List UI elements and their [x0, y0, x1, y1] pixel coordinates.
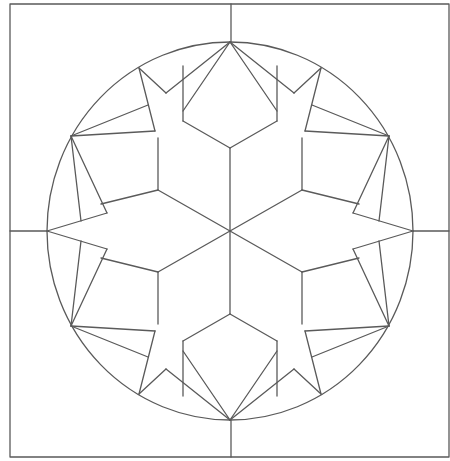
star-quilt-diagram [0, 0, 450, 461]
star-segment [305, 331, 321, 394]
star-segment [71, 326, 148, 357]
star-segment [353, 136, 389, 213]
star-segment [230, 314, 277, 341]
star-segment [294, 68, 321, 93]
star-segment [183, 314, 230, 341]
star-segment [139, 369, 166, 394]
star-segment [379, 241, 389, 326]
star-segment [158, 231, 230, 272]
star-segment [139, 331, 155, 394]
star-segment [302, 190, 359, 204]
star-segment [101, 190, 158, 204]
star-segment [230, 351, 277, 420]
star-segment [230, 42, 294, 93]
star-segment [101, 258, 158, 272]
star-segment [312, 105, 389, 136]
star-segment [294, 369, 321, 394]
star-segment [71, 105, 148, 136]
star-segment [158, 190, 230, 231]
star-segment [71, 136, 81, 221]
star-segment [230, 121, 277, 148]
star-segment [47, 213, 107, 231]
six-point-star [47, 42, 413, 420]
star-segment [305, 326, 389, 331]
star-segment [353, 249, 389, 326]
star-segment [230, 369, 294, 420]
star-segment [183, 351, 230, 420]
star-segment [139, 68, 155, 131]
star-segment [166, 369, 230, 420]
star-segment [139, 68, 166, 93]
star-segment [183, 121, 230, 148]
star-segment [302, 258, 359, 272]
star-segment [312, 326, 389, 357]
star-segment [183, 42, 230, 111]
star-segment [230, 42, 277, 111]
star-segment [71, 326, 155, 331]
star-segment [47, 231, 107, 249]
star-segment [71, 249, 107, 326]
star-segment [305, 131, 389, 136]
star-segment [353, 213, 413, 231]
star-segment [353, 231, 413, 249]
star-segment [71, 241, 81, 326]
star-segment [230, 190, 302, 231]
star-segment [230, 231, 302, 272]
star-segment [71, 131, 155, 136]
star-segment [305, 68, 321, 131]
star-segment [379, 136, 389, 221]
star-segment [166, 42, 230, 93]
star-segment [71, 136, 107, 213]
